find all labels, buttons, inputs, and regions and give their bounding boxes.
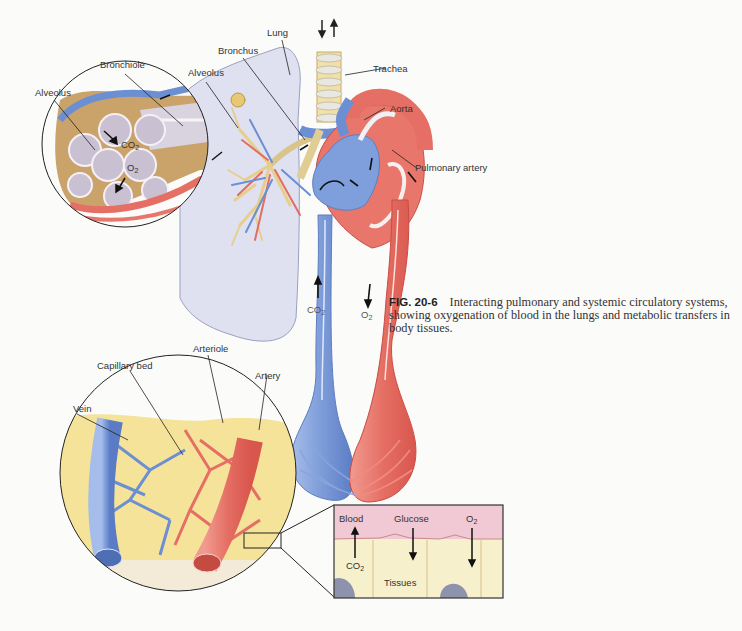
label-bronchus: Bronchus	[218, 46, 258, 56]
label-tissue-o2: O2	[466, 514, 477, 525]
label-tissues: Tissues	[384, 578, 416, 588]
label-alveolus-co2: CO2	[121, 140, 139, 151]
label-trachea: Trachea	[373, 64, 408, 74]
label-glucose: Glucose	[394, 514, 429, 524]
label-alveolus-inset: Alveolus	[35, 88, 71, 98]
label-artery: Artery	[255, 371, 280, 381]
figure-caption: FIG. 20-6Interacting pulmonary and syste…	[389, 296, 739, 335]
figure-caption-text: Interacting pulmonary and systemic circu…	[389, 295, 730, 335]
label-alveolus-o2: O2	[127, 163, 138, 174]
capillary-inset	[60, 355, 300, 600]
label-aorta: Aorta	[390, 104, 413, 114]
label-vessel-o2: O2	[361, 310, 372, 321]
airflow-arrows	[319, 20, 337, 37]
label-tissue-co2: CO2	[346, 561, 364, 572]
label-arteriole: Arteriole	[193, 344, 228, 354]
label-bronchiole: Bronchiole	[100, 60, 145, 70]
label-vessel-co2: CO2	[307, 305, 325, 316]
figure-number: FIG. 20-6	[389, 296, 438, 308]
label-lung: Lung	[267, 28, 288, 38]
label-pulmonary-artery: Pulmonary artery	[415, 163, 487, 173]
label-blood: Blood	[339, 514, 363, 524]
label-alveolus-lung: Alveolus	[188, 68, 224, 78]
label-capillary-bed: Capillary bed	[97, 361, 152, 371]
label-vein: Vein	[73, 404, 92, 414]
